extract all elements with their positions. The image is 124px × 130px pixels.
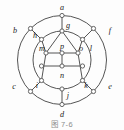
vertex-g[interactable]	[60, 29, 64, 33]
vertex-i-left-junction[interactable]	[39, 64, 43, 68]
vertex-label-b: b	[13, 26, 17, 35]
vertex-c[interactable]	[28, 89, 32, 93]
figure-caption: 图 7-6	[0, 120, 124, 129]
vertex-label-l: l	[90, 44, 93, 53]
vertex-label-p: p	[59, 42, 64, 51]
vertex-label-d: d	[60, 110, 65, 119]
vertex-label-h: h	[33, 31, 37, 40]
vertex-label-o: o	[79, 44, 83, 53]
vertex-d[interactable]	[60, 102, 64, 106]
vertex-label-a: a	[60, 3, 64, 12]
vertex-label-m: m	[39, 44, 45, 53]
vertex-h[interactable]	[39, 37, 43, 41]
vertex-n[interactable]	[60, 64, 64, 68]
vertex-label-n: n	[60, 71, 64, 80]
vertex-label-c: c	[12, 82, 16, 91]
vertex-p[interactable]	[60, 51, 64, 55]
vertex-label-f: f	[109, 26, 113, 35]
vertex-label-g: g	[66, 21, 70, 30]
vertex-e[interactable]	[91, 89, 95, 93]
vertex-k-right-junction[interactable]	[80, 64, 84, 68]
figure-container: a b c d e f g h i j k l m n o p 图 7-6	[0, 0, 124, 130]
vertex-labels: a b c d e f g h i j k l m n o p	[12, 3, 113, 119]
vertex-f[interactable]	[91, 26, 95, 30]
vertex-label-k: k	[84, 81, 88, 90]
vertex-b[interactable]	[28, 26, 32, 30]
vertex-label-i: i	[36, 81, 39, 90]
vertex-a[interactable]	[60, 13, 64, 17]
vertex-i[interactable]	[39, 78, 43, 82]
graph-diagram-svg: a b c d e f g h i j k l m n o p	[0, 0, 124, 130]
vertex-label-e: e	[108, 82, 112, 91]
vertex-j[interactable]	[60, 87, 64, 91]
vertex-label-j: j	[66, 91, 70, 100]
vertex-l[interactable]	[80, 37, 84, 41]
